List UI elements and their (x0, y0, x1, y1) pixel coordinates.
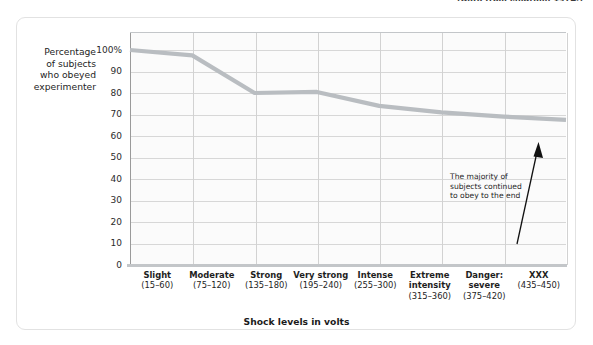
y-axis-tick-50: 50 (111, 153, 122, 162)
vertical-gridline (567, 33, 568, 265)
annotation-line-1: The majority of (450, 172, 508, 181)
data-line-chart (130, 33, 566, 265)
y-axis-tick-0: 0 (116, 261, 122, 270)
x-axis-label-name: Very strong (290, 270, 352, 280)
x-axis-label-0: Slight(15–60) (126, 270, 188, 291)
x-axis-label-4: Intense(255–300) (344, 270, 406, 291)
x-axis-category-labels: Slight(15–60)Moderate(75–120)Strong(135–… (130, 270, 566, 312)
x-axis-label-name: XXX (508, 270, 570, 280)
x-axis-label-name: Danger: severe (453, 270, 515, 291)
y-axis-title: Percentage of subjects who obeyed experi… (20, 46, 96, 92)
x-axis-label-1: Moderate(75–120) (181, 270, 243, 291)
y-axis-tick-70: 70 (111, 110, 122, 119)
y-axis-title-line-4: experimenter (34, 81, 96, 92)
chart-annotation: The majority of subjects continued to ob… (450, 172, 538, 201)
x-axis-label-range: (15–60) (126, 280, 188, 290)
x-axis-label-7: XXX(435–450) (508, 270, 570, 291)
y-axis-tick-30: 30 (111, 196, 122, 205)
x-axis-label-range: (135–180) (235, 280, 297, 290)
x-axis-label-range: (375–420) (453, 291, 515, 301)
y-axis-tick-40: 40 (111, 175, 122, 184)
annotation-line-3: to obey to the end (450, 191, 520, 200)
x-axis-label-name: Moderate (181, 270, 243, 280)
x-axis-label-range: (195–240) (290, 280, 352, 290)
x-axis-label-2: Strong(135–180) (235, 270, 297, 291)
x-axis-label-5: Extreme intensity(315–360) (399, 270, 461, 301)
x-axis-label-6: Danger: severe(375–420) (453, 270, 515, 301)
x-axis-label-range: (255–300) (344, 280, 406, 290)
y-axis-tick-80: 80 (111, 89, 122, 98)
x-axis-label-name: Intense (344, 270, 406, 280)
x-axis-label-range: (435–450) (508, 280, 570, 290)
x-axis-title: Shock levels in volts (0, 316, 593, 327)
data-series-line (130, 50, 566, 120)
y-axis-tick-20: 20 (111, 218, 122, 227)
y-axis-tick-labels: 100%9080706050403020100 (88, 33, 126, 266)
y-axis-tick-60: 60 (111, 132, 122, 141)
y-axis-tick-10: 10 (111, 239, 122, 248)
x-axis-label-range: (315–360) (399, 291, 461, 301)
annotation-line-2: subjects continued (450, 182, 522, 191)
x-axis-label-3: Very strong(195–240) (290, 270, 352, 291)
x-axis-label-name: Strong (235, 270, 297, 280)
x-axis-label-name: Slight (126, 270, 188, 280)
source-credit: (Data from Milgram, 1974.) (457, 0, 583, 1)
x-axis-label-name: Extreme intensity (399, 270, 461, 291)
figure-root: (Data from Milgram, 1974.) Percentage of… (0, 0, 593, 345)
y-axis-tick-100: 100% (96, 46, 122, 55)
y-axis-tick-90: 90 (111, 67, 122, 76)
x-axis-label-range: (75–120) (181, 280, 243, 290)
